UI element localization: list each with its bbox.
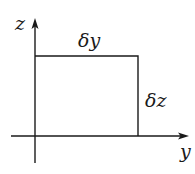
z-axis-label: z <box>15 14 25 33</box>
delta-z-label: δz <box>145 91 166 110</box>
y-axis-label: y <box>180 142 191 161</box>
rectangle-element <box>35 56 138 136</box>
delta-y-label: δy <box>78 31 100 50</box>
diagram-canvas <box>0 0 195 174</box>
